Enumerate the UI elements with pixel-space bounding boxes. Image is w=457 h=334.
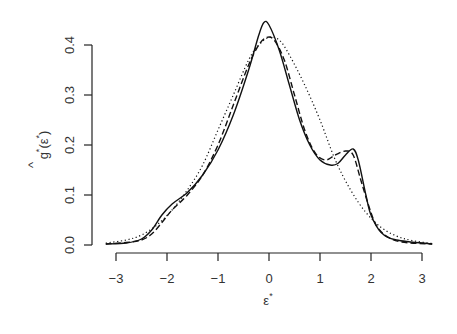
y-tick-label: 0.2 (62, 136, 77, 154)
y-tick-label: 0.1 (62, 186, 77, 204)
x-tick-label: 3 (418, 271, 425, 286)
x-tick-label: 1 (316, 271, 323, 286)
x-tick-label: 0 (265, 271, 272, 286)
y-axis-title: g*(ε*) ^ (25, 131, 51, 168)
x-tick-label: −1 (211, 271, 226, 286)
y-tick-label: 0.4 (62, 36, 77, 54)
x-tick-label: 2 (367, 271, 374, 286)
y-axis: 0.00.10.20.30.4 (62, 36, 92, 254)
x-tick-label: −2 (160, 271, 175, 286)
y-tick-label: 0.0 (62, 236, 77, 254)
x-axis: −3−2−10123 (109, 253, 426, 286)
plot-lines (106, 21, 432, 244)
density-curve-dotted (106, 37, 432, 243)
svg-text:g*(ε*): g*(ε*) (34, 131, 51, 160)
density-chart: 0.00.10.20.30.4 −3−2−10123 ε* g*(ε*) ^ (0, 0, 457, 334)
svg-text:^: ^ (25, 161, 40, 168)
x-tick-label: −3 (109, 271, 124, 286)
density-curve-solid (106, 21, 432, 244)
x-axis-title: ε* (263, 291, 273, 308)
density-curve-dashed (106, 37, 432, 244)
y-tick-label: 0.3 (62, 86, 77, 104)
